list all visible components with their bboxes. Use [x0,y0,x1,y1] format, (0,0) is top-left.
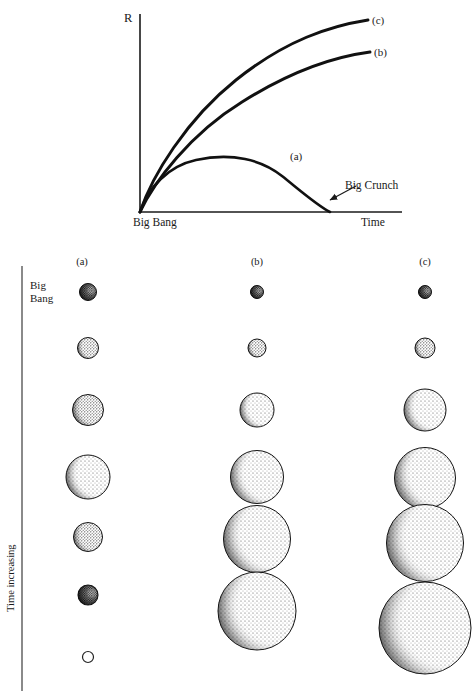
curve-label-flat-b: (b) [374,46,387,59]
sphere-c-6 [379,582,471,674]
curve-flat-b [140,52,370,212]
sphere-b-1 [251,286,264,299]
x-axis-label: Time [361,216,385,228]
curve-open-c [140,20,368,212]
big-bang-origin-label: Big Bang [133,216,177,229]
sphere-b-5 [224,506,291,573]
sphere-c-4 [395,448,456,509]
top-chart: R Time Big Bang Big Crunch (c) (b) (a) [124,11,402,229]
curve-label-closed-a: (a) [290,150,303,163]
big-bang-row-label-line2: Bang [30,292,54,304]
sphere-a-5 [74,523,103,552]
sphere-a-4 [66,455,110,499]
cosmological-expansion-figure: R Time Big Bang Big Crunch (c) (b) (a) T… [0,0,474,691]
column-header-c: (c) [419,256,431,268]
sphere-a-3 [73,395,104,426]
big-bang-row-label-line1: Big [30,279,46,291]
sphere-c-3 [404,389,446,431]
sphere-b-2 [248,339,266,357]
time-increasing-label: Time increasing [5,544,16,612]
sphere-column-a [66,284,110,663]
column-header-b: (b) [251,256,264,268]
sphere-grid-panel: Time increasing Big Bang (a) (b) (c) [5,256,471,691]
y-axis-label: R [124,11,133,25]
sphere-a-1 [80,284,97,301]
curve-label-open-c: (c) [372,14,385,27]
sphere-b-3 [240,393,274,427]
sphere-column-c [379,286,471,675]
curve-closed-a [140,157,330,212]
sphere-c-2 [415,338,435,358]
sphere-column-b [218,286,296,651]
sphere-a-2 [78,338,99,359]
sphere-c-1 [419,286,432,299]
sphere-a-6 [78,585,98,605]
big-crunch-label: Big Crunch [345,179,399,192]
sphere-b-6 [218,572,296,650]
column-header-a: (a) [76,256,88,268]
sphere-b-4 [231,451,284,504]
sphere-c-5 [387,505,464,582]
sphere-a-7-big-crunch-point [83,652,94,663]
figure-canvas: R Time Big Bang Big Crunch (c) (b) (a) T… [0,0,474,691]
